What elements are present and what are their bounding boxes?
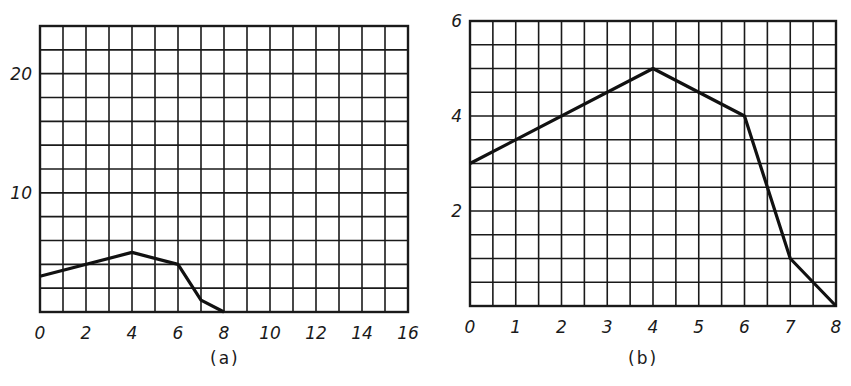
chart-b-panel: 012345678246 (b) [430, 0, 851, 386]
x-tick-label: 14 [351, 323, 373, 343]
y-tick-label: 10 [10, 183, 32, 203]
x-tick-label: 4 [127, 323, 138, 343]
x-tick-label: 0 [35, 323, 46, 343]
chart-a-caption: (a) [210, 348, 240, 368]
chart-a-plot: 02468101214161020 [0, 0, 430, 386]
x-tick-label: 6 [739, 317, 750, 337]
grid [40, 26, 408, 312]
x-tick-label: 10 [259, 323, 281, 343]
y-tick-label: 2 [451, 201, 462, 221]
x-tick-label: 0 [465, 317, 476, 337]
x-tick-label: 8 [219, 323, 230, 343]
x-tick-label: 6 [173, 323, 184, 343]
chart-b-caption: (b) [628, 348, 658, 368]
x-tick-label: 8 [831, 317, 842, 337]
x-tick-label: 2 [81, 323, 92, 343]
x-tick-label: 3 [602, 317, 613, 337]
x-tick-label: 4 [648, 317, 659, 337]
y-tick-label: 6 [451, 11, 462, 31]
chart-b-plot: 012345678246 [430, 0, 851, 386]
x-tick-label: 5 [693, 317, 704, 337]
y-tick-label: 4 [451, 106, 462, 126]
grid [470, 21, 836, 306]
x-tick-label: 2 [556, 317, 567, 337]
x-tick-label: 12 [305, 323, 327, 343]
x-tick-label: 1 [510, 317, 521, 337]
x-tick-label: 16 [397, 323, 419, 343]
x-tick-label: 7 [785, 317, 796, 337]
chart-a-panel: 02468101214161020 (a) [0, 0, 430, 386]
y-tick-label: 20 [10, 64, 32, 84]
